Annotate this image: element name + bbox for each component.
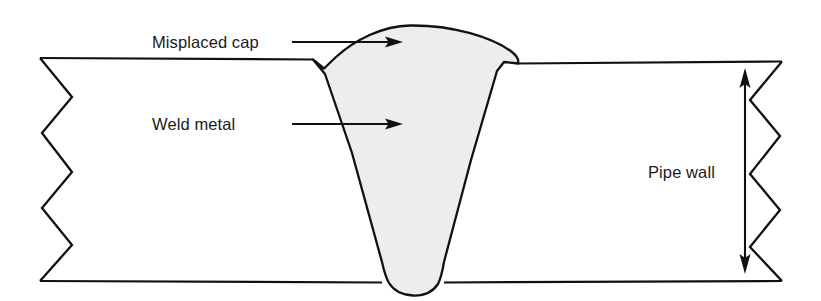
wall-top-line-left [40, 58, 313, 60]
diagram-canvas: Misplaced cap Weld metal Pipe wall [0, 0, 821, 301]
break-line-right [750, 62, 782, 282]
pipe-wall-thickness-dimension: Pipe wall [648, 68, 751, 274]
break-line-left [40, 58, 72, 281]
pipe-wall-label: Pipe wall [648, 163, 715, 181]
weld-metal-shape [313, 25, 518, 295]
wall-top-line-right [518, 62, 782, 64]
weld-metal-label: Weld metal [152, 115, 235, 133]
misplaced-cap-label: Misplaced cap [152, 33, 259, 51]
weld-metal-region [313, 25, 518, 295]
wall-bottom-line-left [40, 281, 382, 283]
weld-diagram: Misplaced cap Weld metal Pipe wall [0, 0, 821, 301]
wall-bottom-line-right [444, 281, 782, 283]
